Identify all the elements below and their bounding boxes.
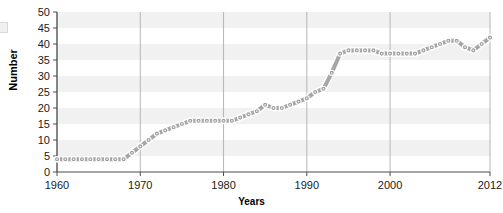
svg-text:5: 5: [44, 150, 50, 162]
svg-text:20: 20: [38, 102, 50, 114]
svg-text:25: 25: [38, 86, 50, 98]
plot-area: 05101520253035404550 1960197019801990200…: [0, 0, 503, 213]
svg-text:30: 30: [38, 70, 50, 82]
horizontal-bands: [57, 12, 490, 156]
svg-text:15: 15: [38, 118, 50, 130]
svg-text:45: 45: [38, 22, 50, 34]
svg-text:1970: 1970: [128, 179, 152, 191]
line-chart: Number Years 05101520253035404550 196019…: [0, 0, 503, 213]
svg-text:50: 50: [38, 6, 50, 18]
y-axis-ticks: 05101520253035404550: [38, 6, 57, 178]
svg-text:10: 10: [38, 134, 50, 146]
svg-text:1960: 1960: [45, 179, 69, 191]
x-axis-ticks: 196019701980199020002012: [45, 172, 502, 191]
svg-text:40: 40: [38, 38, 50, 50]
svg-text:2000: 2000: [378, 179, 402, 191]
svg-text:2012: 2012: [478, 179, 502, 191]
svg-text:1990: 1990: [295, 179, 319, 191]
svg-text:1980: 1980: [211, 179, 235, 191]
svg-text:35: 35: [38, 54, 50, 66]
svg-text:0: 0: [44, 166, 50, 178]
